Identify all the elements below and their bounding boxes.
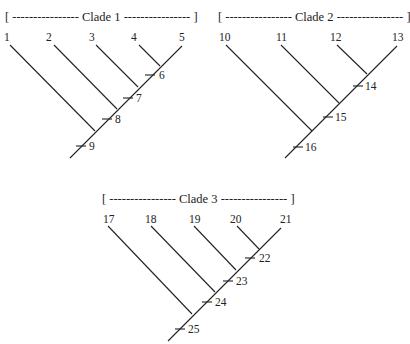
node-label: 25 [188,323,200,335]
node-label: 8 [115,113,121,125]
node-label: 7 [136,92,142,104]
clade-1-spine [70,46,182,158]
clade-1-title: [ ---------------- Clade 1 -------------… [5,10,198,24]
taxon-label: 10 [219,31,231,43]
branch-4 [139,45,160,66]
taxon-label: 19 [189,213,201,225]
clade-3-title: [ ---------------- Clade 3 -------------… [102,192,295,206]
taxon-label: 5 [179,31,185,43]
node-label: 15 [335,111,347,123]
node-label: 22 [259,252,271,264]
cladogram-figure: [ ---------------- Clade 1 -------------… [0,0,410,344]
branch-12 [337,45,367,74]
branch-3 [96,45,138,87]
clade-3-spine [168,228,281,341]
node-label: 24 [215,296,227,308]
branch-19 [194,226,236,270]
taxon-label: 2 [46,31,52,43]
clade-2-spine [285,46,397,158]
node-label: 14 [365,80,377,92]
taxon-label: 21 [280,213,292,225]
taxon-label: 17 [103,213,115,225]
clade-3: [ ---------------- Clade 3 -------------… [102,192,295,341]
node-label: 23 [236,275,248,287]
taxon-label: 11 [276,31,287,43]
branch-18 [151,226,215,292]
branch-17 [108,226,192,314]
clade-1: [ ---------------- Clade 1 -------------… [4,10,198,158]
clade-2-title: [ ---------------- Clade 2 -------------… [218,10,410,24]
taxon-label: 1 [4,31,10,43]
taxon-label: 4 [131,31,137,43]
taxon-label: 12 [330,31,342,43]
branch-11 [281,45,339,103]
taxon-label: 3 [89,31,95,43]
node-label: 9 [89,140,95,152]
taxon-label: 18 [145,213,157,225]
node-label: 16 [305,141,317,153]
taxon-label: 20 [230,213,242,225]
node-label: 6 [159,69,165,81]
branch-20 [237,226,259,249]
branch-10 [226,45,312,131]
clade-2: [ ---------------- Clade 2 -------------… [218,10,410,158]
taxon-label: 13 [392,31,404,43]
branch-1 [10,45,95,131]
